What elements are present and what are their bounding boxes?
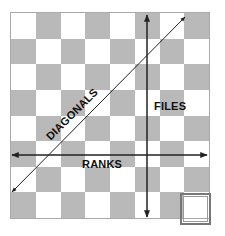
ranks-label: RANKS: [82, 158, 122, 170]
files-label: FILES: [154, 100, 186, 112]
arrows-overlay: [0, 0, 225, 236]
